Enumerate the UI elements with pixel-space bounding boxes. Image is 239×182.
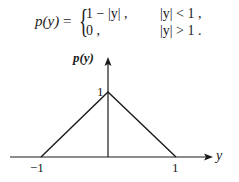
tick-label-plus-1: 1 bbox=[172, 160, 179, 176]
case-2-condition: |y| > 1 . bbox=[160, 23, 202, 39]
case-2-expression: 0 , bbox=[86, 23, 100, 39]
tick-label-minus-1: −1 bbox=[30, 160, 44, 176]
y-axis-label: p(y) bbox=[73, 50, 94, 66]
x-axis-label: y bbox=[216, 148, 222, 164]
formula-lhs: p(y) = bbox=[35, 13, 71, 30]
case-1-condition: |y| < 1 , bbox=[160, 6, 202, 22]
piecewise-formula: p(y) = { 1 − |y| , |y| < 1 , 0 , |y| > 1… bbox=[0, 0, 239, 50]
case-1-expression: 1 − |y| , bbox=[86, 6, 128, 22]
peak-label: 1 bbox=[97, 84, 104, 100]
equals-sign: = bbox=[63, 13, 71, 29]
function-name: p(y) bbox=[35, 13, 59, 29]
